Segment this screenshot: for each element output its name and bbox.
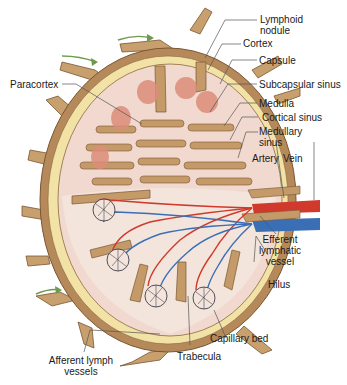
label-line: vessel bbox=[254, 256, 306, 267]
label-line: nodule bbox=[260, 25, 303, 36]
label-line: Lymphoid bbox=[260, 14, 303, 25]
label-line: Medullary bbox=[259, 126, 302, 137]
label-artery: Artery bbox=[252, 153, 279, 164]
label-lymphoid-nodule: Lymphoid nodule bbox=[260, 14, 303, 36]
label-capillary-bed: Capillary bed bbox=[210, 333, 268, 344]
label-subcapsular-sinus: Subcapsular sinus bbox=[259, 79, 341, 90]
label-paracortex: Paracortex bbox=[10, 79, 58, 90]
label-cortex: Cortex bbox=[243, 38, 272, 49]
label-line: Efferent bbox=[254, 234, 306, 245]
label-cortical-sinus: Cortical sinus bbox=[262, 112, 322, 123]
label-vein: Vein bbox=[283, 153, 302, 164]
label-medulla: Medulla bbox=[259, 98, 294, 109]
label-hilus: Hilus bbox=[268, 279, 290, 290]
label-trabecula: Trabecula bbox=[177, 351, 221, 362]
label-afferent-lymph-vessels: Afferent lymph vessels bbox=[46, 355, 116, 377]
label-efferent-lymphatic-vessel: Efferent lymphatic vessel bbox=[254, 234, 306, 267]
label-capsule: Capsule bbox=[259, 55, 296, 66]
label-medullary-sinus: Medullary sinus bbox=[259, 126, 302, 148]
label-line: Afferent lymph bbox=[46, 355, 116, 366]
label-line: vessels bbox=[46, 366, 116, 377]
label-line: sinus bbox=[259, 137, 302, 148]
label-line: lymphatic bbox=[254, 245, 306, 256]
